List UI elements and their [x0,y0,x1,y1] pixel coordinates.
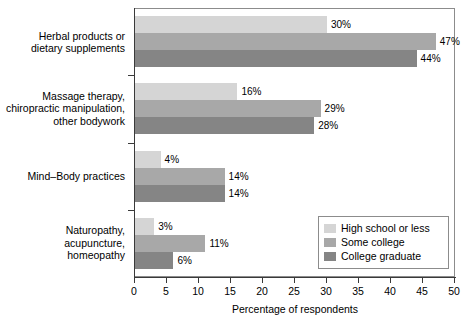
category-label-line: acupuncture, [64,237,125,249]
category-label-line: chiropractic manipulation, [6,103,125,115]
x-axis-tick-label: 45 [407,285,437,297]
x-axis-tick-label: 30 [311,285,341,297]
bar [135,218,154,235]
x-axis-tick-label: 35 [343,285,373,297]
bar-value-label: 4% [165,151,179,168]
bar-value-label: 44% [421,50,441,67]
x-axis-tick [230,278,231,283]
bar-value-label: 16% [241,83,261,100]
x-axis-tick-label: 40 [375,285,405,297]
bar-value-label: 14% [229,185,249,202]
category-label: Mind–Body practices [0,170,125,182]
x-axis-tick-label: 15 [215,285,245,297]
bar-value-label: 14% [229,168,249,185]
category-label: Massage therapy,chiropractic manipulatio… [0,90,125,127]
x-axis-tick-label: 50 [439,285,466,297]
y-axis-tick [128,210,135,211]
legend-swatch-icon [324,238,336,247]
category-label-line: Massage therapy, [42,90,125,102]
bar-value-label: 6% [177,252,191,269]
x-axis-tick [454,278,455,283]
category-label-line: dietary supplements [31,42,125,54]
x-axis-tick [326,278,327,283]
bar [135,100,321,117]
bar [135,185,225,202]
category-label-group: Herbal products ordietary supplementsMas… [0,8,130,277]
bar [135,117,314,134]
bar-value-label: 11% [209,235,228,252]
category-label-line: Mind–Body practices [28,170,125,182]
bar [135,50,417,67]
bar-chart: Herbal products ordietary supplementsMas… [0,0,466,325]
bar [135,83,237,100]
x-axis-title: Percentage of respondents [134,303,456,315]
x-axis-tick-label: 25 [279,285,309,297]
legend-label: High school or less [341,222,430,235]
x-axis-tick-label: 5 [151,285,181,297]
category-label: Herbal products ordietary supplements [0,29,125,54]
category-label: Naturopathy,acupuncture,homeopathy [0,225,125,262]
x-axis-tick-label: 20 [247,285,277,297]
x-axis-tick [358,278,359,283]
x-axis-line [134,277,456,278]
legend: High school or less Some college College… [318,216,449,269]
legend-item-some-college[interactable]: Some college [324,236,443,249]
bar [135,235,205,252]
x-axis-tick [390,278,391,283]
legend-swatch-icon [324,224,336,233]
legend-label: Some college [341,236,405,249]
bar [135,33,436,50]
x-axis-tick [166,278,167,283]
bar [135,151,161,168]
bar [135,16,327,33]
category-label-line: homeopathy [67,250,125,262]
bar-value-label: 3% [158,218,172,235]
x-axis-tick [134,278,135,283]
category-label-line: Herbal products or [39,29,125,41]
x-axis-tick [422,278,423,283]
bar-value-label: 30% [331,16,351,33]
x-axis-tick [294,278,295,283]
bar-value-label: 29% [325,100,345,117]
x-axis-tick [198,278,199,283]
bar-value-label: 28% [318,117,338,134]
x-axis-tick-label: 10 [183,285,213,297]
y-axis-tick [128,143,135,144]
legend-item-college-graduate[interactable]: College graduate [324,250,443,263]
x-axis-tick-label: 0 [119,285,149,297]
bar [135,252,173,269]
category-label-line: Naturopathy, [66,225,125,237]
y-axis-tick [128,75,135,76]
bar-value-label: 47% [440,33,460,50]
bar [135,168,225,185]
legend-item-high-school-or-less[interactable]: High school or less [324,222,443,235]
x-axis-tick [262,278,263,283]
legend-label: College graduate [341,250,421,263]
legend-swatch-icon [324,252,336,261]
category-label-line: other bodywork [53,115,125,127]
